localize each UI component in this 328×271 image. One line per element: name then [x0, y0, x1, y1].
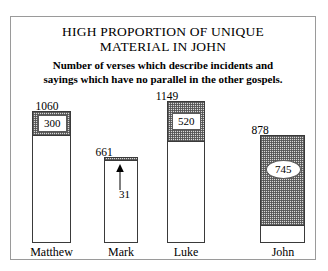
- bar-unique-segment-john: [261, 136, 304, 226]
- category-label-luke: Luke: [150, 245, 222, 260]
- bar-john: 745: [260, 135, 305, 243]
- plot-area: 1060 300 Matthew 661 31 Mark 1149 520 Lu…: [11, 17, 317, 261]
- bar-unique-label-matthew: 300: [38, 115, 67, 132]
- bar-unique-label-mark: 31: [119, 188, 130, 200]
- bar-unique-label-john: 745: [266, 160, 301, 179]
- category-label-john: John: [247, 245, 319, 260]
- category-label-mark: Mark: [85, 245, 157, 260]
- bar-matthew: 300: [32, 111, 71, 243]
- unique-callout-arrow-mark: [114, 164, 126, 190]
- bar-unique-segment-mark: [105, 158, 137, 161]
- bar-mark: 31: [104, 157, 138, 243]
- bar-luke: 520: [167, 101, 205, 243]
- bar-unique-label-luke: 520: [172, 113, 201, 130]
- category-label-matthew: Matthew: [11, 245, 92, 260]
- chart-figure: HIGH PROPORTION OF UNIQUE MATERIAL IN JO…: [10, 16, 316, 260]
